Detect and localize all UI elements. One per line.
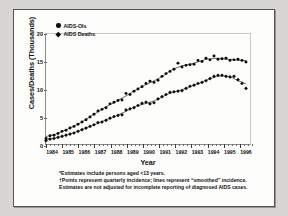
x-axis-tick-mark-year	[127, 144, 128, 148]
data-point	[233, 58, 236, 61]
data-point	[149, 80, 152, 83]
legend-label: AIDS Deaths	[64, 31, 96, 37]
x-axis-tick-label: 1994	[208, 149, 220, 155]
x-axis-tick-label: 1987	[95, 149, 107, 155]
data-point	[197, 59, 200, 62]
x-axis-tick-mark-quarter	[244, 144, 245, 146]
data-point	[124, 108, 128, 112]
plot-area-wrapper: Cases/Deaths (Thousands) 051015201984198…	[14, 10, 276, 208]
x-axis-tick-mark-year	[224, 144, 225, 148]
data-point	[93, 113, 96, 116]
x-axis-tick-mark-quarter	[228, 144, 229, 146]
data-point	[189, 63, 192, 66]
data-point	[125, 92, 128, 95]
trend-line	[46, 76, 246, 139]
x-axis-tick-mark-quarter	[107, 144, 108, 146]
x-axis-tick-mark-quarter	[195, 144, 196, 146]
data-point	[244, 87, 248, 91]
footnote-line: †Points represent quarterly incidence; l…	[59, 177, 248, 184]
data-point	[193, 63, 196, 66]
data-point	[69, 127, 72, 130]
data-point	[57, 132, 60, 135]
data-point	[77, 123, 80, 126]
data-point	[237, 58, 240, 61]
data-point	[213, 55, 216, 58]
data-point	[156, 97, 160, 101]
data-point	[53, 134, 56, 137]
data-point	[136, 104, 140, 108]
data-point	[100, 120, 104, 124]
x-axis-tick-mark-quarter	[119, 144, 120, 146]
x-axis-tick-label: 1993	[192, 149, 204, 155]
data-series-svg	[46, 34, 250, 144]
data-point	[221, 57, 224, 60]
x-axis-tick-mark-quarter	[135, 144, 136, 146]
x-axis-tick-mark-quarter	[204, 144, 205, 146]
legend-marker-circle-icon	[56, 23, 61, 28]
data-point	[240, 82, 244, 86]
x-axis-tick-mark-quarter	[248, 144, 249, 146]
data-point	[113, 101, 116, 104]
x-axis-tick-mark-quarter	[99, 144, 100, 146]
data-point	[204, 79, 208, 83]
data-point	[228, 75, 232, 79]
data-point	[224, 74, 228, 78]
x-axis-tick-mark-quarter	[58, 144, 59, 146]
data-point	[245, 61, 248, 64]
data-point	[109, 102, 112, 105]
x-axis-tick-mark-year	[208, 144, 209, 148]
x-axis-tick-label: 1989	[127, 149, 139, 155]
data-point	[184, 87, 188, 91]
x-axis-tick-mark-quarter	[183, 144, 184, 146]
x-axis-tick-mark-quarter	[50, 144, 51, 146]
x-axis-tick-label: 1984	[46, 149, 58, 155]
data-point	[60, 134, 64, 138]
data-point	[181, 66, 184, 69]
data-point	[225, 57, 228, 60]
x-axis-tick-label: 1992	[176, 149, 188, 155]
data-point	[61, 130, 64, 133]
x-axis-tick-mark-quarter	[139, 144, 140, 146]
footnote-line: Estimates are not adjusted for incomplet…	[59, 184, 248, 191]
x-axis-tick-mark-quarter	[163, 144, 164, 146]
data-point	[92, 123, 96, 127]
data-point	[145, 82, 148, 85]
data-point	[89, 116, 92, 119]
data-point	[172, 90, 176, 94]
x-axis-tick-mark-quarter	[179, 144, 180, 146]
x-axis-tick-mark-quarter	[131, 144, 132, 146]
legend-item: AIDS-OIs	[56, 22, 95, 29]
data-point	[177, 62, 180, 65]
data-point	[76, 129, 80, 133]
x-axis-tick-mark-year	[62, 144, 63, 148]
data-point	[236, 78, 240, 82]
data-point	[73, 125, 76, 128]
data-point	[165, 72, 168, 75]
x-axis-tick-mark-quarter	[115, 144, 116, 146]
data-point	[121, 99, 124, 102]
data-point	[64, 133, 68, 137]
x-axis-tick-mark-quarter	[66, 144, 67, 146]
y-axis-tick-mark	[44, 62, 47, 63]
x-axis-tick-mark-quarter	[232, 144, 233, 146]
x-axis-tick-mark-quarter	[90, 144, 91, 146]
x-axis-tick-label: 1996	[240, 149, 252, 155]
legend-label: AIDS-OIs	[64, 23, 87, 29]
x-axis-tick-mark-year	[240, 144, 241, 148]
x-axis-tick-mark-quarter	[167, 144, 168, 146]
x-axis-tick-label: 1995	[224, 149, 236, 155]
data-point	[56, 136, 60, 140]
data-point	[217, 58, 220, 61]
x-axis-tick-mark-quarter	[155, 144, 156, 146]
data-point	[161, 75, 164, 78]
data-point	[104, 118, 108, 122]
x-axis-tick-mark-year	[111, 144, 112, 148]
data-point	[201, 60, 204, 63]
x-axis-tick-mark-quarter	[236, 144, 237, 146]
data-point	[141, 85, 144, 88]
x-axis-tick-mark-quarter	[212, 144, 213, 146]
data-point	[176, 89, 180, 93]
data-point	[129, 93, 132, 96]
data-point	[185, 64, 188, 67]
data-point	[137, 88, 140, 91]
